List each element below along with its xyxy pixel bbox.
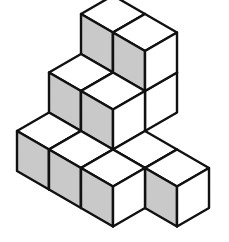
- cube-stack-diagram: [0, 0, 229, 242]
- cubes-group: [17, 0, 209, 227]
